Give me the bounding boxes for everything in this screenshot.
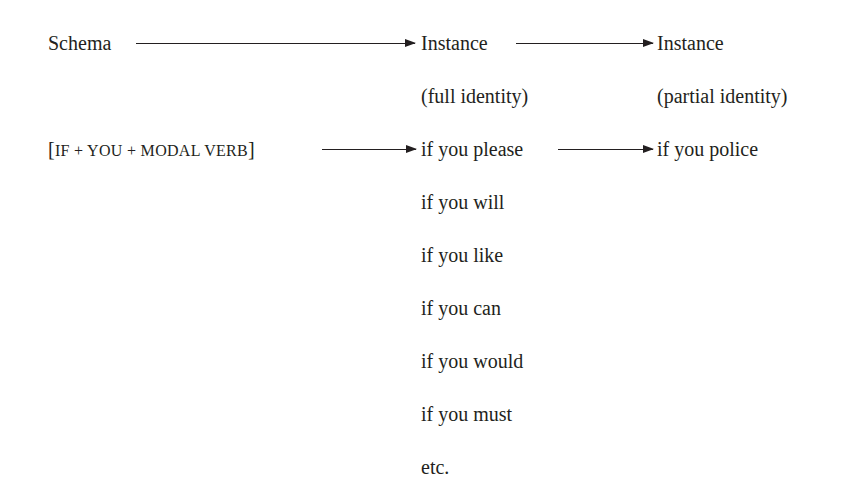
instance-item: if you must <box>421 402 512 426</box>
instance-item: if you please <box>421 137 523 161</box>
schema-formula-text: IF + YOU + MODAL VERB <box>55 142 248 159</box>
instance-item-etc: etc. <box>421 455 449 479</box>
instance-item: if you like <box>421 243 503 267</box>
arrow-schema-to-please <box>322 149 416 150</box>
partial-instance-item: if you police <box>657 137 758 161</box>
instance-item: if you would <box>421 349 523 373</box>
instance-full-sublabel: (full identity) <box>421 84 528 108</box>
instance-partial-sublabel: (partial identity) <box>657 84 788 108</box>
schema-formula: [IF + YOU + MODAL VERB] <box>48 137 255 163</box>
schema-label: Schema <box>48 31 111 55</box>
open-bracket: [ <box>48 138 55 160</box>
instance-full-label: Instance <box>421 31 488 55</box>
close-bracket: ] <box>248 138 255 160</box>
arrow-instance-to-instance <box>516 43 653 44</box>
instance-item: if you can <box>421 296 501 320</box>
instance-partial-label: Instance <box>657 31 724 55</box>
arrow-schema-to-instance <box>136 43 415 44</box>
arrow-please-to-police <box>558 149 653 150</box>
instance-item: if you will <box>421 190 504 214</box>
